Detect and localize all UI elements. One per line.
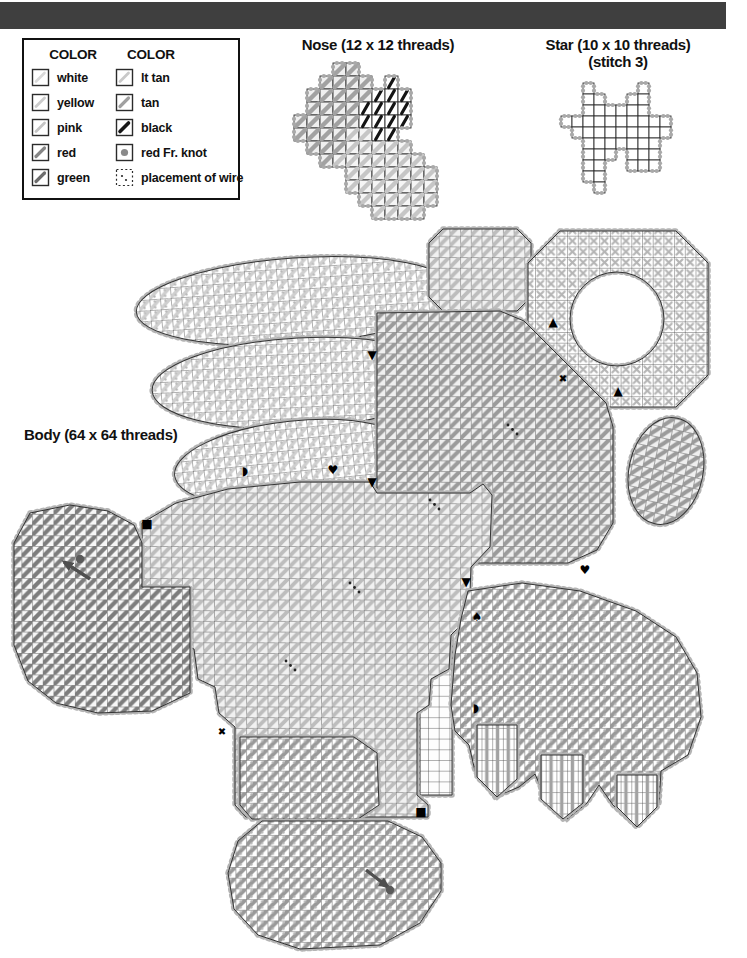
stitch-swatch-icon bbox=[31, 118, 50, 137]
stitch-marker-triangle-up: ▲ bbox=[548, 315, 558, 329]
stitch-swatch-icon bbox=[31, 143, 50, 162]
wire-placement-mark bbox=[353, 586, 356, 589]
stitch-swatch-icon bbox=[31, 93, 50, 112]
stitch-marker-triangle-down: ▼ bbox=[367, 348, 377, 362]
legend-item-label: red bbox=[57, 146, 76, 160]
body-piece-left-foot bbox=[240, 737, 379, 819]
wire-placement-mark bbox=[285, 660, 288, 663]
wire-placement-mark bbox=[294, 669, 297, 672]
body-piece-feather-tip-3 bbox=[617, 775, 657, 827]
pattern-page: { "page": { "background": "#ffffff", "to… bbox=[0, 0, 747, 958]
stitch-marker-heart: ♥ bbox=[328, 463, 339, 477]
star-chart-title-line2: (stitch 3) bbox=[518, 53, 718, 70]
star-chart-title: Star (10 x 10 threads) (stitch 3) bbox=[518, 36, 718, 70]
body-piece-right-paw bbox=[619, 410, 714, 531]
wire-placement-mark bbox=[349, 582, 352, 585]
stitch-swatch-icon bbox=[115, 93, 134, 112]
legend-item-black: black bbox=[115, 115, 243, 140]
star-chart-title-line1: Star (10 x 10 threads) bbox=[518, 36, 718, 53]
legend-item-yellow: yellow bbox=[31, 90, 115, 115]
stitch-swatch-icon bbox=[31, 68, 50, 87]
wire-placement-mark bbox=[516, 433, 519, 436]
legend-item-label: white bbox=[57, 71, 88, 85]
stitch-marker-spade: ♠ bbox=[472, 610, 483, 624]
legend-item-pink: pink bbox=[31, 115, 115, 140]
legend-item-label: placement of wire bbox=[141, 171, 243, 185]
page-header-bar bbox=[0, 2, 726, 29]
stitch-marker-triangle-down: ▼ bbox=[367, 475, 377, 489]
legend-item-label: red Fr. knot bbox=[141, 146, 207, 160]
legend-item-label: black bbox=[141, 121, 172, 135]
color-key-items-1: whiteyellowpinkredgreen bbox=[31, 65, 115, 190]
color-key: COLOR whiteyellowpinkredgreen COLOR lt t… bbox=[22, 38, 240, 200]
legend-item-white: white bbox=[31, 65, 115, 90]
color-key-column-1: COLOR whiteyellowpinkredgreen bbox=[31, 47, 115, 198]
stitch-marker-square: ■ bbox=[141, 517, 152, 531]
legend-item-red-fr-knot: red Fr. knot bbox=[115, 140, 243, 165]
wire-placement-mark bbox=[507, 424, 510, 427]
wire-placement-mark bbox=[289, 664, 292, 667]
stitch-marker-x-mark: ✖ bbox=[218, 726, 226, 737]
wire-placement-mark bbox=[358, 591, 361, 594]
stitch-marker-half-circle: ◗ bbox=[242, 464, 248, 478]
legend-item-label: tan bbox=[141, 96, 159, 110]
star-stitch-chart bbox=[556, 78, 676, 198]
stitch-marker-x-mark: ✖ bbox=[559, 373, 567, 384]
legend-item-placement-of-wire: placement of wire bbox=[115, 165, 243, 190]
stitch-direction-arrow-dot bbox=[76, 555, 84, 563]
legend-item-label: yellow bbox=[57, 96, 94, 110]
legend-item-tan: tan bbox=[115, 90, 243, 115]
wire-placement-mark bbox=[438, 508, 441, 511]
legend-item-label: green bbox=[57, 171, 90, 185]
wire-placement-mark bbox=[511, 428, 514, 431]
color-key-header-1: COLOR bbox=[31, 47, 115, 62]
stitch-marker-heart: ♥ bbox=[580, 563, 591, 577]
wire-placement-mark bbox=[429, 499, 432, 502]
stitch-marker-half-circle: ◗ bbox=[473, 701, 479, 715]
color-key-column-2: COLOR lt tantanblackred Fr. knotplacemen… bbox=[115, 47, 243, 198]
wire-placement-mark bbox=[433, 503, 436, 506]
color-key-header-2: COLOR bbox=[115, 47, 219, 62]
stitch-marker-triangle-up: ▲ bbox=[613, 384, 623, 398]
body-stitch-chart: ■■▲▲▼▼▼♥♥◗◗♠✖✖ bbox=[0, 225, 715, 958]
stitch-swatch-icon bbox=[115, 118, 134, 137]
legend-item-lt-tan: lt tan bbox=[115, 65, 243, 90]
knot-swatch-icon bbox=[115, 143, 134, 162]
legend-item-green: green bbox=[31, 165, 115, 190]
legend-item-label: lt tan bbox=[141, 71, 170, 85]
nose-stitch-chart bbox=[289, 58, 455, 224]
legend-item-label: pink bbox=[57, 121, 82, 135]
nose-chart-title: Nose (12 x 12 threads) bbox=[278, 36, 478, 53]
legend-item-red: red bbox=[31, 140, 115, 165]
stitch-swatch-icon bbox=[115, 68, 134, 87]
stitch-marker-triangle-down: ▼ bbox=[461, 575, 471, 589]
stitch-direction-arrow-dot bbox=[386, 886, 394, 894]
stitch-marker-square: ■ bbox=[415, 805, 426, 819]
body-piece-top-ear bbox=[429, 229, 531, 311]
wire-swatch-icon bbox=[115, 168, 134, 187]
stitch-swatch-icon bbox=[31, 168, 50, 187]
color-key-items-2: lt tantanblackred Fr. knotplacement of w… bbox=[115, 65, 243, 190]
